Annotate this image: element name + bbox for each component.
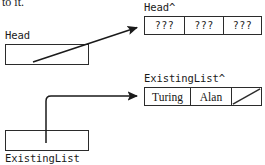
existinglist-variable-label: ExistingList — [5, 152, 80, 164]
nil-pointer-slash-icon — [232, 88, 261, 105]
existinglist-variable-box — [5, 130, 89, 151]
head-cell-1-value: ??? — [155, 20, 175, 31]
head-record-node: ??? ??? ??? — [144, 16, 262, 35]
existinglist-cell-nil-pointer — [231, 88, 261, 105]
existinglist-cell-surname: Turing — [145, 88, 190, 105]
existinglist-cell-surname-value: Turing — [150, 91, 185, 103]
existinglist-cell-firstname: Alan — [190, 88, 231, 105]
head-cell-2-value: ??? — [194, 20, 214, 31]
existinglist-cell-firstname-value: Alan — [198, 91, 224, 103]
head-cell-1: ??? — [145, 17, 184, 34]
head-cell-3: ??? — [223, 17, 261, 34]
head-variable-box — [5, 44, 89, 65]
pointer-diagram-canvas: to it. Head ExistingList Head^ ??? ??? ?… — [0, 0, 265, 165]
head-cell-3-value: ??? — [233, 20, 253, 31]
existinglist-record-node: Turing Alan — [144, 87, 262, 106]
head-node-label: Head^ — [144, 1, 175, 13]
existinglist-node-label: ExistingList^ — [144, 72, 225, 84]
head-cell-2: ??? — [184, 17, 223, 34]
clipped-body-text: to it. — [2, 0, 24, 10]
head-variable-label: Head — [5, 29, 30, 41]
